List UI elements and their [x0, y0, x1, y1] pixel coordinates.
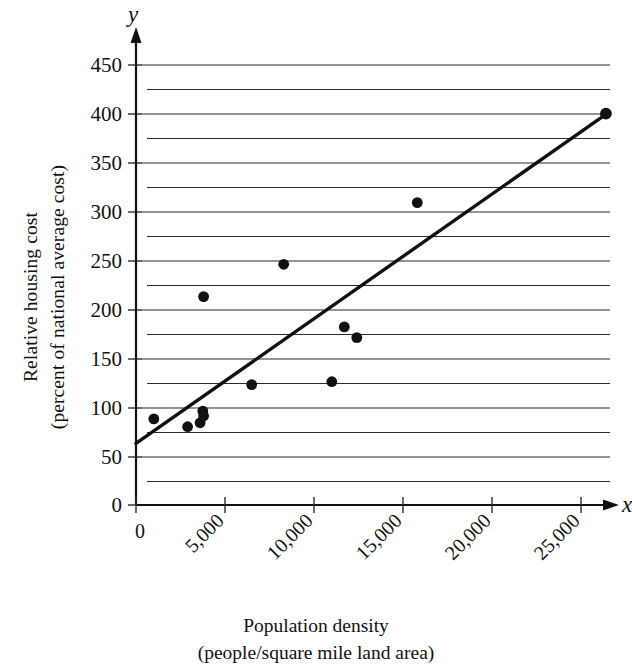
x-axis: [136, 500, 619, 511]
x-axis-variable-label: x: [621, 492, 632, 517]
x-tick-label: 15,000: [351, 509, 405, 563]
data-point: [182, 421, 193, 432]
data-point: [198, 291, 209, 302]
y-axis-title: Relative housing cost (percent of nation…: [17, 67, 71, 527]
x-tick-label: 0: [135, 520, 145, 542]
y-axis: [131, 27, 142, 505]
y-tick-label: 0: [112, 493, 123, 517]
x-tick-label: 25,000: [529, 509, 583, 563]
y-tick-label: 300: [91, 200, 123, 224]
y-axis-title-line-2: (percent of national average cost): [44, 67, 71, 527]
y-tick-label: 150: [91, 347, 123, 371]
data-point: [198, 411, 209, 422]
x-axis-title: Population density (people/square mile l…: [0, 612, 632, 666]
x-axis-title-line-2: (people/square mile land area): [0, 639, 632, 666]
y-tick-label: 400: [91, 102, 123, 126]
x-tick-labels: 0 5,000 10,000 15,000 20,000 25,000: [135, 509, 584, 563]
data-point: [326, 376, 337, 387]
y-tick-label: 250: [91, 249, 123, 273]
scatter-plot-figure: 450 400 350 300 250 200 150 100 50 0 0 5…: [0, 0, 632, 666]
data-point: [246, 379, 257, 390]
y-axis-title-line-1: Relative housing cost: [17, 67, 44, 527]
y-axis-variable-label: y: [126, 2, 139, 27]
y-tick-label: 200: [91, 298, 123, 322]
data-point: [351, 332, 362, 343]
y-tick-label: 50: [101, 445, 122, 469]
plot-canvas: 450 400 350 300 250 200 150 100 50 0 0 5…: [0, 0, 632, 666]
x-tick-label: 10,000: [262, 509, 316, 563]
data-point: [412, 197, 423, 208]
y-tick-label: 100: [91, 396, 123, 420]
data-point: [600, 108, 612, 120]
x-axis-title-line-1: Population density: [0, 612, 632, 639]
data-point: [148, 414, 159, 425]
x-tick-label: 20,000: [440, 509, 494, 563]
y-tick-label: 350: [91, 151, 123, 175]
y-tick-labels: 450 400 350 300 250 200 150 100 50 0: [91, 53, 123, 517]
x-tick-label: 5,000: [180, 509, 227, 556]
data-point: [339, 322, 350, 333]
y-tick-label: 450: [91, 53, 123, 77]
data-point: [278, 259, 289, 270]
